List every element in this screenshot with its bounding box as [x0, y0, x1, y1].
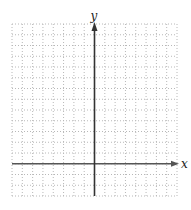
y-axis-label: y [90, 9, 98, 23]
x-axis-label: x [181, 157, 188, 171]
y-axis-arrow-icon [92, 22, 98, 31]
x-axis-arrow-icon [171, 161, 179, 167]
coordinate-plane: x y [0, 0, 191, 210]
